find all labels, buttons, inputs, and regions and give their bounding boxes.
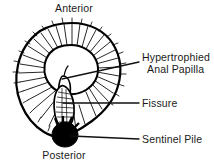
anal-orifice [44,45,98,94]
label-sentinel-pile: Sentinel Pile [142,133,202,145]
sentinel-pile-body [52,122,78,147]
label-hypertrophied-anal-papilla-line1: Hypertrophied [142,51,210,63]
label-anterior: Anterior [55,2,93,14]
leader-line-sentinel-pile [71,136,139,139]
diagram-canvas: Anterior Posterior Hypertrophied Anal Pa… [0,0,214,165]
anal-fissure-figure: Anterior Posterior Hypertrophied Anal Pa… [0,0,214,165]
label-fissure: Fissure [142,97,177,109]
anal-canal-group [44,45,98,94]
label-hypertrophied-anal-papilla-line2: Anal Papilla [147,63,204,75]
label-posterior: Posterior [42,149,86,161]
